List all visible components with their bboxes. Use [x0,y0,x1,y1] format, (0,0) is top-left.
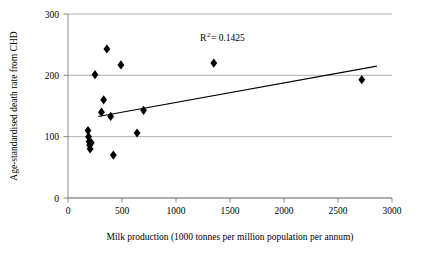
y-axis-title: Age-standardised death rate from CHD [9,31,19,180]
y-tick-label: 0 [54,194,59,204]
x-tick-label: 1500 [221,206,240,216]
r-squared-value: = 0.1425 [211,33,245,43]
x-axis-tickmarks [68,198,392,203]
x-axis-title: Milk production (1000 tonnes per million… [107,232,354,243]
y-tick-label: 300 [45,10,60,20]
scatter-chart: 300 200 100 0 0 500 1000 1500 2000 2500 … [0,0,421,259]
y-axis-tickmarks [64,14,69,198]
y-tick-label: 200 [45,71,60,81]
x-axis-tick-labels: 0 500 1000 1500 2000 2500 3000 [66,206,402,216]
y-axis-tick-labels: 300 200 100 0 [45,10,60,204]
x-tick-label: 3000 [383,206,402,216]
x-tick-label: 2000 [275,206,294,216]
chart-canvas: 300 200 100 0 0 500 1000 1500 2000 2500 … [0,0,421,259]
x-tick-label: 1000 [167,206,186,216]
r-squared-superscript: 2 [207,31,210,38]
x-tick-label: 2500 [329,206,348,216]
y-tick-label: 100 [45,132,60,142]
x-tick-label: 500 [115,206,130,216]
r-squared-prefix: R [200,33,207,43]
x-tick-label: 0 [66,206,71,216]
